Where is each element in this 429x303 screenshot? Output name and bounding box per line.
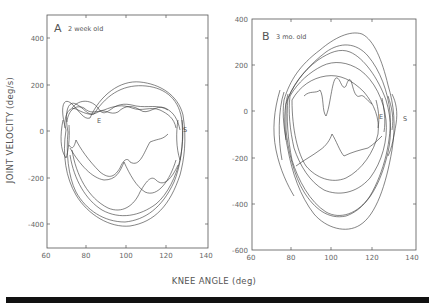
panel-a-curves <box>61 82 185 226</box>
panel-a-ytick-neg400: -400 <box>28 221 44 229</box>
panel-a-xtick-80: 80 <box>82 252 91 260</box>
panel-a-annotation-s: S <box>183 126 187 134</box>
panel-a-ytick-neg200: -200 <box>28 175 44 183</box>
panel-b-annotation-e: E <box>379 113 383 121</box>
panel-b-title: 3 mo. old <box>276 33 306 41</box>
panel-b-xtick-100: 100 <box>324 254 337 262</box>
panel-b-ytick-neg200: -200 <box>232 155 248 163</box>
panel-a-xtick-140: 140 <box>199 252 212 260</box>
panel-a-letter: A <box>54 22 62 35</box>
panel-b-ytick-0: 0 <box>244 108 248 116</box>
y-axis-label: JOINT VELOCITY (deg/s) <box>5 77 15 184</box>
panel-b-xtick-120: 120 <box>365 254 378 262</box>
figure: 400 200 0 -200 -400 60 80 100 120 140 A … <box>0 0 429 303</box>
panel-b-ytick-400: 400 <box>235 16 248 24</box>
panel-b-annotation-s: S <box>403 115 407 123</box>
panel-b-ytick-200: 200 <box>235 62 248 70</box>
panel-b: 400 200 0 -200 -400 -600 60 80 100 120 1… <box>232 16 419 263</box>
panel-a-ytick-400: 400 <box>31 35 44 43</box>
x-axis-label: KNEE ANGLE (deg) <box>172 276 256 286</box>
panel-a-xtick-120: 120 <box>159 252 172 260</box>
scan-edge-bar <box>6 297 429 303</box>
panel-a-annotation-e: E <box>97 117 101 125</box>
panel-a: 400 200 0 -200 -400 60 80 100 120 140 A … <box>28 15 213 260</box>
panel-a-ytick-200: 200 <box>31 82 44 90</box>
panel-a-ytick-0: 0 <box>40 128 44 136</box>
panel-b-letter: B <box>262 30 270 43</box>
panel-a-xtick-100: 100 <box>119 252 132 260</box>
panel-b-xtick-80: 80 <box>287 254 296 262</box>
panel-b-curves <box>274 33 397 229</box>
panel-b-ytick-neg400: -400 <box>232 201 248 209</box>
panel-b-xtick-60: 60 <box>247 254 256 262</box>
panel-a-xtick-60: 60 <box>42 252 51 260</box>
panel-a-title: 2 week old <box>68 25 103 33</box>
panel-b-xtick-140: 140 <box>405 254 418 262</box>
